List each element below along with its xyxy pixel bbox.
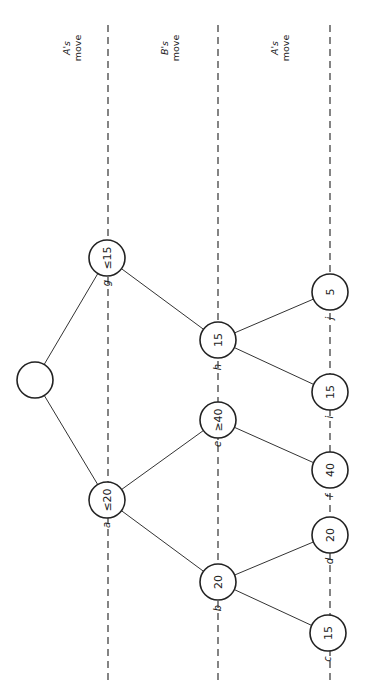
node-label-b: b [212, 605, 223, 611]
node-label-a: a [101, 522, 112, 528]
node-f: 40 f [312, 452, 348, 498]
svg-text:move: move [72, 35, 83, 62]
svg-text:A's: A's [269, 41, 280, 56]
node-root [17, 362, 53, 398]
svg-text:15: 15 [212, 333, 225, 347]
node-label-h: h [212, 364, 223, 370]
node-c: 15 c [310, 615, 346, 662]
svg-text:5: 5 [324, 289, 337, 296]
svg-text:A's: A's [61, 41, 72, 56]
svg-text:20: 20 [324, 528, 337, 542]
node-e: ≥40 e [200, 402, 236, 447]
svg-text:15: 15 [322, 626, 335, 640]
node-label-c: c [322, 656, 333, 662]
node-a: ≤20 a [89, 482, 125, 528]
ply-label-1: A's move [61, 35, 83, 62]
node-label-j: j [324, 316, 335, 321]
edge-root-a [35, 380, 107, 500]
svg-text:15: 15 [324, 385, 337, 399]
node-label-i: i [324, 415, 335, 418]
ply-label-2: B's move [159, 35, 181, 62]
svg-text:20: 20 [212, 575, 225, 589]
svg-text:move: move [280, 35, 291, 62]
edge-a-b [107, 500, 218, 582]
svg-text:B's: B's [159, 41, 170, 55]
game-tree-diagram: A's move B's move A's move ≤15 g ≤20 a 1… [0, 0, 368, 692]
svg-text:move: move [170, 35, 181, 62]
edge-a-e [107, 420, 218, 500]
edge-g-h [107, 258, 218, 340]
svg-text:40: 40 [324, 463, 337, 477]
svg-text:≥40: ≥40 [212, 408, 225, 431]
edge-root-g [35, 258, 107, 380]
ply-label-3: A's move [269, 35, 291, 62]
node-label-d: d [324, 557, 335, 564]
node-label-g: g [101, 280, 112, 286]
svg-text:≤15: ≤15 [101, 246, 114, 269]
svg-text:≤20: ≤20 [101, 488, 114, 511]
node-label-e: e [212, 441, 223, 447]
